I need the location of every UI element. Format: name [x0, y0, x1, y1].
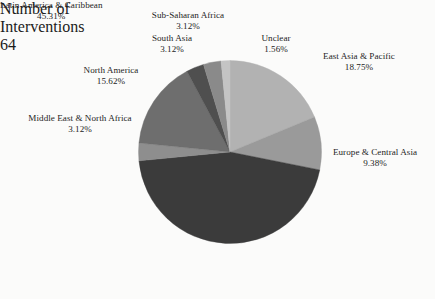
- slice-label-latin-america-caribbean: Latin America & Caribbean 45.31%: [0, 0, 103, 23]
- slice-label-name: Unclear: [261, 33, 290, 43]
- slice-label-name: Europe & Central Asia: [333, 147, 417, 157]
- slice-label-europe-central-asia: Europe & Central Asia 9.38%: [315, 147, 435, 170]
- slice-label-east-asia-pacific: East Asia & Pacific 18.75%: [288, 51, 430, 74]
- slice-label-name: Sub-Saharan Africa: [152, 10, 224, 20]
- slice-label-percent: 3.12%: [6, 124, 154, 135]
- pie-slice-latin-america-caribbean[interactable]: [139, 152, 320, 244]
- slice-label-middle-east-north-africa: Middle East & North Africa 3.12%: [6, 113, 154, 136]
- slice-label-south-asia: South Asia 3.12%: [132, 33, 212, 56]
- slice-label-name: South Asia: [152, 33, 192, 43]
- legend-value: 64: [0, 36, 16, 53]
- slice-label-name: Middle East & North Africa: [28, 113, 131, 123]
- slice-label-sub-saharan-africa: Sub-Saharan Africa 3.12%: [129, 10, 247, 33]
- slice-label-north-america: North America 15.62%: [56, 65, 166, 88]
- slice-label-percent: 15.62%: [56, 76, 166, 87]
- pie-slice-group: [139, 61, 322, 244]
- slice-label-name: East Asia & Pacific: [323, 51, 395, 61]
- pie-chart-figure: Sub-Saharan Africa 3.12% Unclear 1.56% S…: [0, 0, 435, 299]
- slice-label-percent: 3.12%: [132, 44, 212, 55]
- slice-label-name: Latin America & Caribbean: [0, 0, 103, 10]
- slice-label-percent: 3.12%: [129, 21, 247, 32]
- slice-label-percent: 18.75%: [288, 62, 430, 73]
- slice-label-percent: 45.31%: [0, 11, 103, 22]
- slice-label-name: North America: [84, 65, 139, 75]
- slice-label-percent: 9.38%: [315, 158, 435, 169]
